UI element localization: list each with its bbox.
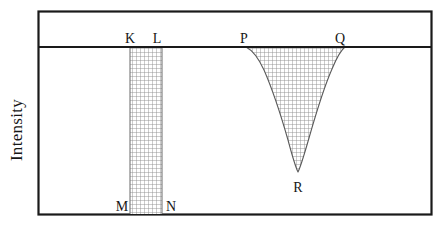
label-k: K	[125, 31, 135, 46]
plot-frame	[39, 12, 432, 215]
label-m: M	[116, 199, 129, 214]
rectangular-band-region	[130, 47, 162, 215]
label-r: R	[293, 180, 303, 195]
intensity-peak-figure: Intensity K L M N P Q R	[0, 0, 446, 231]
label-q: Q	[335, 31, 345, 46]
label-p: P	[240, 31, 248, 46]
label-n: N	[166, 199, 176, 214]
label-l: L	[153, 31, 162, 46]
y-axis-label: Intensity	[7, 99, 26, 161]
figure-canvas: Intensity K L M N P Q R	[0, 0, 446, 231]
